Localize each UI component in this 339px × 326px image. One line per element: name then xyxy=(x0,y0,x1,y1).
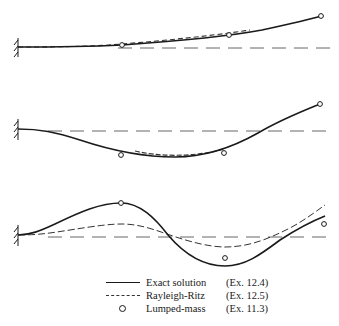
legend-label: Rayleigh-Ritz xyxy=(146,289,226,302)
fixed-support-icon xyxy=(14,225,18,246)
exact-solution-curve xyxy=(18,16,321,47)
legend-ref: (Ex. 12.4) xyxy=(226,276,268,289)
legend-item-exact: Exact solution (Ex. 12.4) xyxy=(104,276,268,289)
legend-ref: (Ex. 11.3) xyxy=(226,302,268,315)
mode-2 xyxy=(14,102,334,158)
dashed-line-icon xyxy=(104,289,140,302)
mode-1 xyxy=(14,14,334,57)
exact-solution-curve xyxy=(18,203,325,266)
exact-solution-curve xyxy=(18,104,320,157)
legend-label: Exact solution xyxy=(146,276,226,289)
open-circle-icon xyxy=(104,302,140,315)
legend-label: Lumped-mass xyxy=(146,302,226,315)
fixed-support-icon xyxy=(14,119,18,140)
solid-line-icon xyxy=(104,276,140,289)
legend-item-rayleigh-ritz: Rayleigh-Ritz (Ex. 12.5) xyxy=(104,289,268,302)
fixed-support-icon xyxy=(14,38,18,57)
legend: Exact solution (Ex. 12.4) Rayleigh-Ritz … xyxy=(104,276,268,315)
mode-3 xyxy=(14,201,334,266)
legend-ref: (Ex. 12.5) xyxy=(226,289,268,302)
legend-item-lumped-mass: Lumped-mass (Ex. 11.3) xyxy=(104,302,268,315)
